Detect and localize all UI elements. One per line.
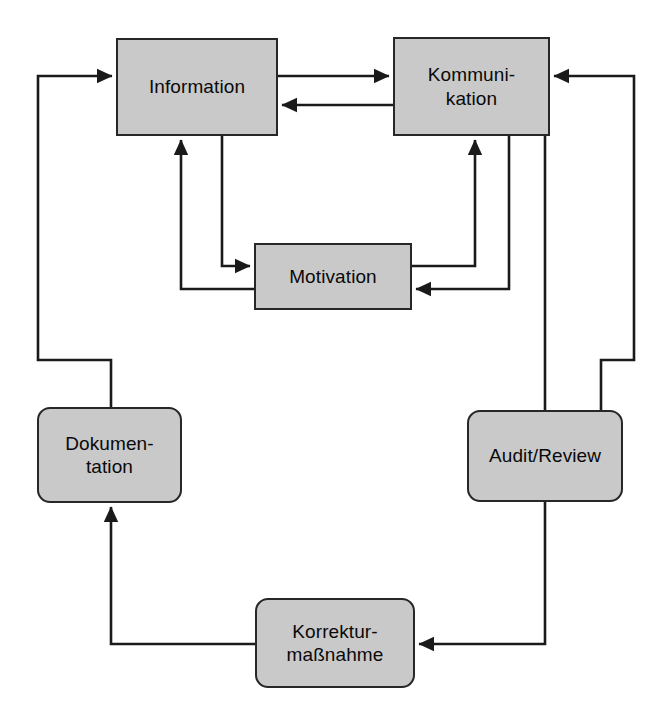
- node-kommunikation-label: Kommuni- kation: [422, 63, 521, 109]
- edge-korrektur-to-dokumentation: [111, 507, 255, 644]
- node-audit-review-label: Audit/Review: [483, 444, 607, 467]
- node-dokumentation[interactable]: Dokumen- tation: [37, 407, 182, 503]
- node-motivation[interactable]: Motivation: [254, 243, 412, 310]
- edge-motivation-to-kommunikation: [412, 140, 475, 266]
- node-korrekturmassnahme[interactable]: Korrektur- maßnahme: [255, 598, 415, 688]
- edge-information-to-motivation: [222, 136, 250, 266]
- node-kommunikation[interactable]: Kommuni- kation: [393, 37, 550, 136]
- edge-dokumentation-to-information: [38, 76, 112, 407]
- node-motivation-label: Motivation: [283, 265, 383, 288]
- node-information[interactable]: Information: [116, 38, 278, 136]
- node-dokumentation-label: Dokumen- tation: [59, 432, 159, 478]
- node-audit-review[interactable]: Audit/Review: [467, 410, 623, 502]
- node-information-label: Information: [143, 75, 251, 98]
- edge-audit-to-korrektur: [419, 502, 545, 644]
- node-korrekturmassnahme-label: Korrektur- maßnahme: [281, 620, 390, 666]
- flow-diagram: Information Kommuni- kation Motivation D…: [0, 0, 656, 722]
- edge-audit-feedback-to-kommunikation: [554, 76, 634, 410]
